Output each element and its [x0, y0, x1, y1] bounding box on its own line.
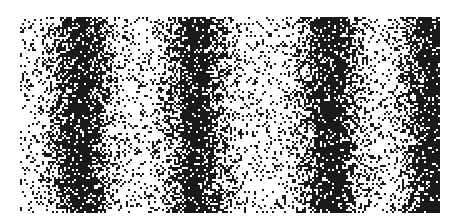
dithered-band-pattern — [0, 0, 455, 223]
